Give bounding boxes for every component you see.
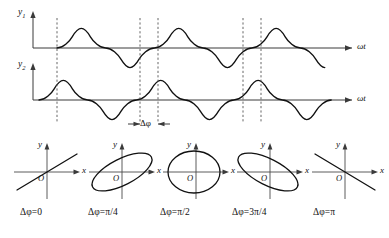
panel-pi-2-y-label: y: [187, 140, 191, 149]
panel-pi-2-caption: Δφ=π/2: [160, 208, 190, 218]
panel-0-caption: Δφ=0: [20, 208, 42, 218]
lissajous-panel-pi: [312, 143, 378, 199]
panel-3pi-4-y-arrow: [268, 143, 273, 150]
panel-pi-2-x-arrow: [223, 170, 230, 175]
panel-3pi-4-origin-label: O: [261, 174, 267, 183]
panel-pi-2-y-arrow: [194, 143, 199, 150]
top-waveform-axes: [30, 11, 352, 51]
top-y-axis-arrow: [30, 11, 35, 18]
panel-pi-y-label: y: [336, 140, 340, 149]
figure-canvas: [0, 0, 389, 238]
panel-pi-x-label: x: [380, 166, 384, 175]
panel-0-y-label: y: [38, 140, 42, 149]
panel-0-origin-label: O: [38, 174, 44, 183]
panel-pi-origin-label: O: [336, 174, 342, 183]
lissajous-panel-pi-2: [163, 143, 229, 199]
top-y-axis-label: y1: [18, 8, 25, 19]
phase-difference-label: Δφ: [140, 119, 151, 128]
panel-0-y-arrow: [45, 143, 50, 150]
panel-pi-4-origin-label: O: [113, 174, 119, 183]
phase-marker-right-arrow: [158, 122, 165, 126]
panel-pi-4-x-arrow: [149, 170, 156, 175]
top-x-axis-label: ωt: [357, 42, 366, 51]
panel-3pi-4-y-label: y: [261, 140, 265, 149]
panel-3pi-4-x-arrow: [297, 170, 304, 175]
physics-figure: y1 ωt y2 ωt Δφ y x O Δφ=0 y x O Δφ=π/4 y…: [0, 0, 389, 238]
panel-pi-caption: Δφ=π: [313, 208, 335, 218]
panel-pi-4-y-label: y: [113, 140, 117, 149]
lissajous-panel-0: [14, 143, 80, 199]
panel-pi-y-arrow: [343, 143, 348, 150]
panel-pi-4-x-label: x: [157, 166, 161, 175]
panel-pi-4-caption: Δφ=π/4: [88, 208, 118, 218]
panel-pi-x-arrow: [372, 170, 379, 175]
panel-0-x-arrow: [74, 170, 81, 175]
bottom-y-axis-arrow: [30, 63, 35, 70]
panel-3pi-4-x-label: x: [305, 166, 309, 175]
panel-pi-4-y-arrow: [120, 143, 125, 150]
top-x-axis-arrow: [345, 45, 352, 50]
panel-0-x-label: x: [82, 166, 86, 175]
bottom-y-axis-label: y2: [18, 60, 25, 71]
panel-pi-2-x-label: x: [231, 166, 235, 175]
lissajous-panel-pi-4: [87, 143, 158, 199]
bottom-x-axis-arrow: [345, 97, 352, 102]
bottom-x-axis-label: ωt: [357, 94, 366, 103]
lissajous-panel-3pi-4: [233, 143, 304, 199]
panel-pi-2-origin-label: O: [187, 174, 193, 183]
panel-3pi-4-caption: Δφ=3π/4: [232, 208, 267, 218]
